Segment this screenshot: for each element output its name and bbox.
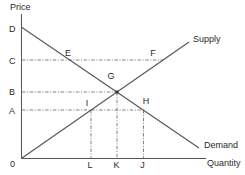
price-axis-label: Price: [10, 2, 31, 12]
demand-curve-label: Demand: [204, 140, 238, 150]
quantity-axis-label: Quantity: [207, 158, 241, 168]
equilibrium-point: [115, 90, 118, 93]
quantity-tick-j: J: [140, 160, 145, 170]
price-tick-b: B: [9, 87, 15, 97]
price-tick-a: A: [9, 106, 15, 116]
supply-curve-label: Supply: [193, 34, 221, 44]
point-label-f: F: [150, 48, 156, 58]
quantity-tick-l: L: [87, 160, 92, 170]
point-label-g: G: [107, 71, 114, 81]
point-label-e: E: [65, 48, 71, 58]
price-tick-d: D: [9, 24, 16, 34]
origin-label: 0: [10, 159, 15, 169]
diagram-canvas: Price Quantity Supply Demand D C B A 0 L…: [0, 0, 245, 175]
supply-demand-diagram: Price Quantity Supply Demand D C B A 0 L…: [0, 0, 245, 175]
point-label-i: I: [86, 98, 89, 108]
supply-curve: [22, 42, 189, 158]
point-label-h: H: [143, 96, 150, 106]
price-tick-c: C: [9, 56, 16, 66]
quantity-tick-k: K: [113, 160, 119, 170]
demand-curve: [22, 28, 199, 149]
